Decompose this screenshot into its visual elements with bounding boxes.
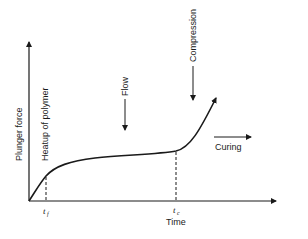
compression-label: Compression: [188, 9, 198, 62]
y-axis-label: Plunger force: [14, 107, 24, 161]
curing-label: Curing: [215, 142, 242, 152]
tc-tick-label: t: [173, 205, 176, 215]
force-curve: [29, 98, 216, 201]
tf-tick-subscript: f: [47, 211, 50, 217]
plunger-force-diagram: Plunger force Heatup of polymer Flow Com…: [0, 0, 308, 239]
x-axis-label: Time: [166, 217, 186, 227]
heatup-label: Heatup of polymer: [40, 87, 50, 161]
tc-tick-subscript: c: [177, 210, 180, 216]
flow-label: Flow: [120, 76, 130, 96]
tf-tick-label: t: [43, 206, 46, 216]
